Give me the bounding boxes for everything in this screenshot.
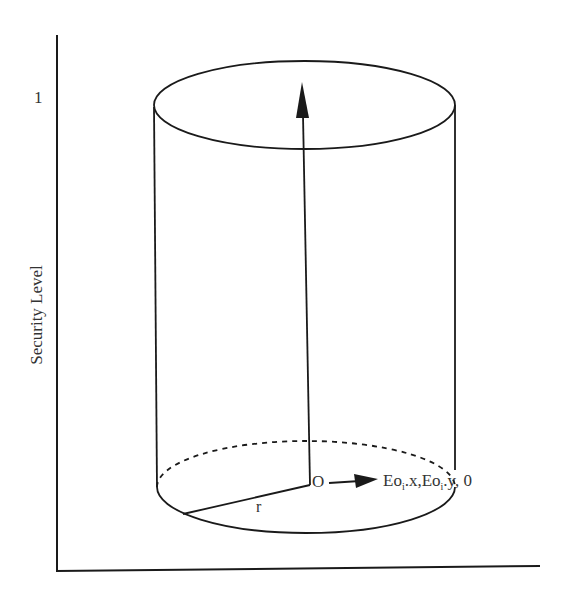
origin-label: O bbox=[312, 472, 324, 491]
cylinder-left-wall bbox=[154, 107, 157, 487]
horizontal-arrowhead-icon bbox=[354, 474, 378, 488]
vector-label: Eoi.x,Eoi.y, 0 bbox=[383, 471, 472, 492]
radius-label: r bbox=[256, 498, 262, 515]
vertical-vector-shaft bbox=[303, 115, 310, 485]
radius-line bbox=[183, 485, 310, 514]
y-axis-title: Security Level bbox=[27, 265, 46, 365]
vertical-arrowhead-icon bbox=[296, 82, 309, 118]
vector-label-part: Eo bbox=[383, 471, 402, 490]
y-axis-tick-label: 1 bbox=[34, 88, 43, 107]
diagram-canvas: 1 Security Level r O Eoi.x,Eoi.y, 0 bbox=[0, 0, 581, 593]
cylinder-diagram: 1 Security Level r O Eoi.x,Eoi.y, 0 bbox=[0, 0, 581, 593]
vector-label-part: .x,Eo bbox=[405, 471, 441, 490]
x-axis bbox=[56, 566, 540, 571]
vector-label-part: .y, 0 bbox=[443, 471, 472, 490]
